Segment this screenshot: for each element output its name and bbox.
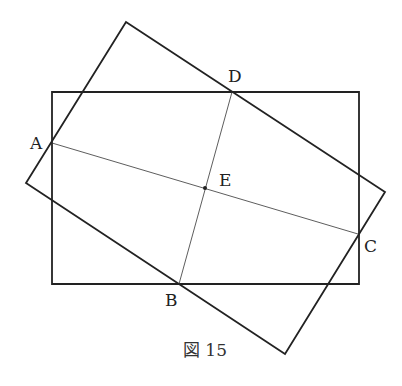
- label-point-c: C: [364, 236, 377, 256]
- geometry-figure: ABCDE 図 15: [0, 0, 402, 386]
- label-point-b: B: [165, 290, 178, 310]
- figure-caption: 図 15: [183, 340, 227, 360]
- point-e-dot: [203, 186, 207, 190]
- label-point-d: D: [228, 66, 242, 86]
- label-point-e: E: [219, 170, 231, 190]
- label-point-a: A: [29, 133, 43, 153]
